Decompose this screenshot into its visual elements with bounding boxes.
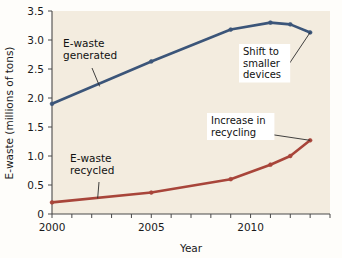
x-tick-label: 2010 (237, 221, 264, 233)
x-axis-ticks (52, 214, 330, 218)
data-point-marker (149, 60, 153, 64)
data-point-marker (269, 163, 273, 167)
data-point-marker (229, 177, 233, 181)
callout-line: Increase in (211, 115, 266, 126)
data-point-marker (149, 191, 153, 195)
x-tick-label: 2000 (39, 221, 66, 233)
y-tick-label: 3.0 (27, 34, 44, 46)
callout-line: recycling (211, 127, 256, 138)
y-tick-label: 1.5 (27, 121, 44, 133)
y-tick-label: 3.5 (27, 5, 44, 17)
y-tick-label: 1.0 (27, 150, 44, 162)
label-ewaste-recycled: E-wasterecycled (70, 152, 114, 176)
data-point-marker (288, 22, 292, 26)
ewaste-line-chart: 00.51.01.52.02.53.03.5 200020052010 Year… (0, 0, 342, 258)
y-tick-label: 0.5 (27, 179, 44, 191)
data-point-marker (229, 28, 233, 32)
y-axis-title: E-waste (millions of tons) (3, 47, 15, 180)
callout-line: devices (243, 69, 281, 80)
data-point-marker (269, 21, 273, 25)
y-tick-label: 0 (37, 208, 44, 220)
callout-line: E-waste (70, 152, 112, 164)
x-tick-label: 2005 (138, 221, 165, 233)
data-point-marker (50, 102, 54, 106)
callout-line: generated (63, 49, 117, 61)
chart-figure: 00.51.01.52.02.53.03.5 200020052010 Year… (0, 0, 342, 258)
x-axis-tick-labels: 200020052010 (39, 221, 264, 233)
data-point-marker (50, 201, 54, 205)
y-tick-label: 2.0 (27, 92, 44, 104)
callout-line: Shift to (243, 46, 279, 57)
y-tick-label: 2.5 (27, 63, 44, 75)
callout-line: E-waste (63, 37, 105, 49)
data-point-marker (288, 154, 292, 158)
callout-line: recycled (70, 164, 114, 176)
y-axis-ticks: 00.51.01.52.02.53.03.5 (27, 5, 52, 220)
x-axis-title: Year (179, 242, 203, 254)
annotation-shift-to-smaller-devices: Shift tosmallerdevices (243, 46, 281, 80)
callout-line: smaller (243, 58, 281, 69)
